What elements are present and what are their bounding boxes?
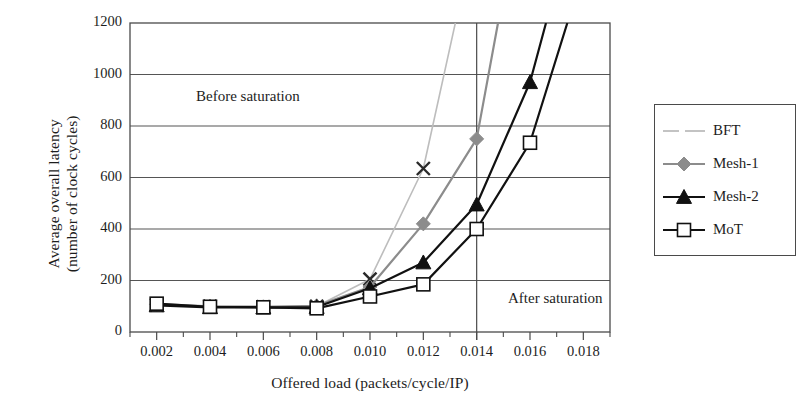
legend-label: BFT <box>707 122 741 139</box>
legend-swatch-bft-icon <box>661 121 707 141</box>
x-tick-label: 0.006 <box>233 343 293 360</box>
legend-label: Mesh-2 <box>707 188 759 205</box>
chart-figure: Average overall latency (number of clock… <box>0 0 812 409</box>
series-mot <box>150 23 567 315</box>
y-axis-title: Average overall latency (number of clock… <box>45 39 81 349</box>
series-mesh-2 <box>149 23 546 314</box>
y-tick-label: 1200 <box>64 13 122 30</box>
y-axis-title-line1: Average overall latency <box>45 39 63 349</box>
x-tick-label: 0.012 <box>393 343 453 360</box>
annotation-before-saturation: Before saturation <box>196 88 300 105</box>
annotation-after-saturation: After saturation <box>508 290 603 307</box>
x-tick-marks <box>157 332 584 340</box>
x-tick-label: 0.010 <box>340 343 400 360</box>
legend-label: MoT <box>707 221 743 238</box>
legend-swatch-mesh-1-icon <box>661 154 707 174</box>
legend-label: Mesh-1 <box>707 155 759 172</box>
chart-legend: BFTMesh-1Mesh-2MoT <box>654 104 796 256</box>
x-tick-label: 0.004 <box>180 343 240 360</box>
legend-swatch-mesh-2-icon <box>661 187 707 207</box>
y-tick-label: 200 <box>64 271 122 288</box>
legend-item-bft: BFT <box>661 114 787 147</box>
y-tick-label: 600 <box>64 168 122 185</box>
y-tick-label: 400 <box>64 219 122 236</box>
legend-item-mesh-1: Mesh-1 <box>661 147 787 180</box>
x-tick-label: 0.002 <box>127 343 187 360</box>
data-series-layer <box>149 23 567 315</box>
legend-swatch-mot-icon <box>661 220 707 240</box>
legend-item-mot: MoT <box>661 213 787 246</box>
x-tick-label: 0.008 <box>287 343 347 360</box>
y-tick-label: 800 <box>64 116 122 133</box>
gridlines <box>130 75 610 281</box>
legend-item-mesh-2: Mesh-2 <box>661 180 787 213</box>
y-axis-title-line2: (number of clock cycles) <box>63 39 81 349</box>
x-tick-label: 0.016 <box>500 343 560 360</box>
x-tick-label: 0.018 <box>553 343 613 360</box>
y-tick-label: 1000 <box>64 65 122 82</box>
x-tick-label: 0.014 <box>447 343 507 360</box>
x-axis-title: Offered load (packets/cycle/IP) <box>130 374 610 392</box>
y-tick-label: 0 <box>64 322 122 339</box>
